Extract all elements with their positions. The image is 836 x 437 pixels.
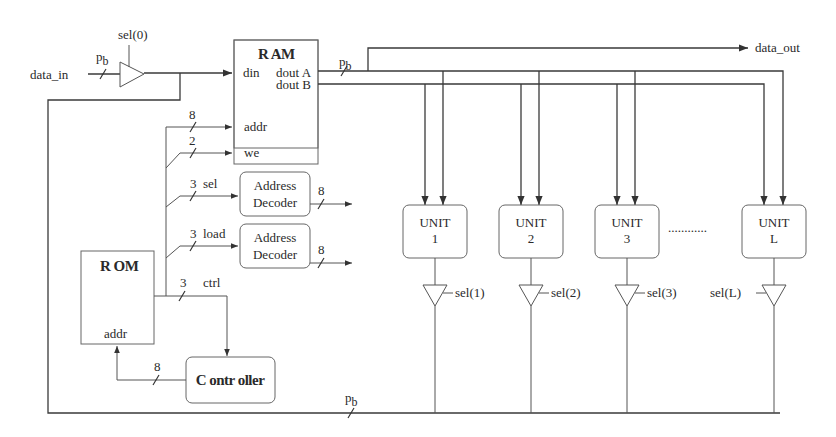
rom-addr-wire [117, 346, 186, 380]
unit-l-buffer-icon [762, 285, 786, 306]
unit-l-label: UNIT [758, 215, 789, 230]
address-decoder-1-width: 8 [318, 183, 325, 198]
sel0-label: sel(0) [118, 27, 148, 42]
controller-title: C ontr oller [196, 372, 266, 388]
address-decoder-2: Address Decoder 8 [240, 224, 352, 268]
ram-port-din: din [243, 65, 260, 80]
we-width: 2 [189, 133, 196, 148]
data-in-width-label: pb [96, 49, 109, 68]
ctrl-width: 3 [180, 275, 187, 290]
unit-3-sel-label: sel(3) [647, 285, 677, 300]
block-diagram: data_in pb sel(0) pb R AM din dout A dou… [0, 0, 836, 437]
ram-output-buses: pb data_out [318, 40, 800, 205]
rom-addr-width: 8 [154, 359, 161, 374]
unit-2-buffer-icon [519, 285, 543, 306]
sel-signal-label: sel [203, 176, 218, 191]
address-decoder-2-label-1: Address [254, 230, 297, 245]
data-out-wire [368, 48, 748, 71]
data-in-label: data_in [30, 67, 69, 82]
unit-3: UNIT 3 sel(3) [595, 205, 677, 413]
controller-block: C ontr oller [186, 357, 275, 403]
address-decoder-2-label-2: Decoder [253, 247, 298, 262]
we-wire [166, 153, 232, 168]
unit-1: UNIT 1 sel(1) [403, 205, 485, 413]
unit-1-sel-label: sel(1) [455, 285, 485, 300]
ram-title: R AM [258, 46, 295, 62]
addr-width: 8 [189, 107, 196, 122]
unit-2: UNIT 2 sel(2) [499, 205, 581, 413]
sel-width: 3 [190, 176, 197, 191]
data-in-input: data_in pb [30, 49, 121, 82]
feedback-bus-width-label: pb [345, 390, 358, 409]
rom-block: R OM addr [81, 251, 154, 344]
ctrl-signal-label: ctrl [203, 275, 221, 290]
unit-3-label: UNIT [611, 215, 642, 230]
load-width: 3 [190, 226, 197, 241]
buffer-triangle-icon [120, 62, 144, 87]
unit-3-buffer-icon [615, 285, 639, 306]
dout-b-bus [318, 84, 764, 205]
data-out-label: data_out [755, 40, 800, 55]
unit-2-sel-label: sel(2) [551, 285, 581, 300]
unit-1-label: UNIT [419, 215, 450, 230]
dout-width-label: pb [339, 54, 352, 73]
ram-port-addr: addr [244, 119, 268, 134]
load-signal-label: load [203, 226, 226, 241]
unit-2-index: 2 [528, 231, 535, 246]
unit-1-buffer-icon [423, 285, 447, 306]
address-decoder-1: Address Decoder 8 [240, 172, 352, 216]
unit-l: UNIT L sel(L) [710, 205, 806, 413]
address-decoder-1-label-2: Decoder [253, 195, 298, 210]
dout-a-bus [318, 71, 783, 205]
unit-l-sel-label: sel(L) [710, 285, 741, 300]
unit-l-index: L [770, 231, 778, 246]
ram-port-dout-b: dout B [276, 77, 311, 92]
ctrl-wire [154, 296, 227, 356]
ram-port-we: we [244, 145, 259, 160]
rom-addr-port: addr [104, 326, 128, 341]
rom-title: R OM [100, 258, 139, 274]
unit-1-index: 1 [432, 231, 439, 246]
address-decoder-2-width: 8 [318, 242, 325, 257]
units-ellipsis: ............ [668, 220, 707, 235]
input-buffer: sel(0) [118, 27, 148, 87]
ram-block: R AM din dout A dout B addr we [234, 40, 318, 160]
unit-3-index: 3 [624, 231, 631, 246]
load-wire [166, 246, 238, 258]
unit-2-label: UNIT [515, 215, 546, 230]
control-bus: 8 2 3 sel 3 load [166, 107, 238, 296]
address-decoder-1-label-1: Address [254, 178, 297, 193]
sel-wire [166, 196, 238, 207]
